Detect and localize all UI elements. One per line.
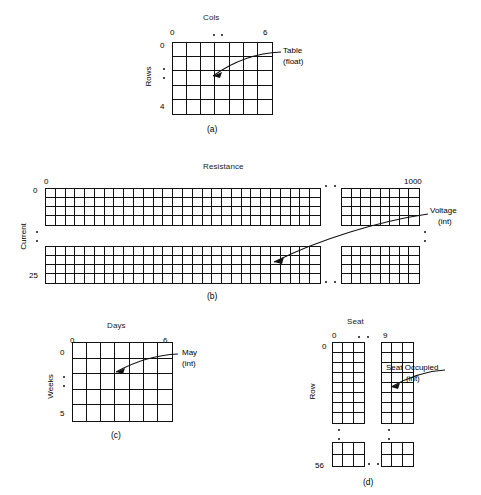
ellipsis-dot: [358, 336, 360, 338]
panel-c-leader-line: [108, 348, 188, 380]
panel-b-y-ellipsis: [36, 231, 38, 242]
ellipsis-dot: [63, 385, 65, 387]
panel-d-annotation-line1: Seat Occupied: [386, 363, 438, 374]
panel-a-y-max-tick: 4: [160, 102, 164, 111]
panel-c-annotation-line1: May: [182, 348, 197, 359]
panel-b-y-max-tick: 25: [29, 271, 38, 280]
panel-c: Days 0 6 Weeks 0 5 May (int) (c): [0, 310, 250, 460]
panel-c-y-ellipsis: [63, 376, 65, 387]
panel-c-y-min-tick: 0: [60, 348, 64, 357]
ellipsis-dot: [36, 231, 38, 233]
ellipsis-dot: [36, 240, 38, 242]
panel-a-x-ellipsis: [213, 34, 223, 36]
panel-a-annotation-line2: (float): [283, 57, 303, 68]
panel-d-x-ellipsis-top: [358, 336, 369, 338]
panel-c-y-axis-title: Weeks: [46, 365, 55, 409]
ellipsis-dot: [63, 376, 65, 378]
panel-c-caption: (c): [111, 430, 121, 440]
panel-c-annotation: May (int): [182, 348, 197, 369]
panel-d-grid-bottom-left[interactable]: [332, 442, 365, 467]
panel-d-x-min-tick: 0: [332, 331, 336, 340]
ellipsis-dot: [377, 463, 379, 465]
ellipsis-dot: [367, 336, 369, 338]
ellipsis-dot: [334, 281, 336, 283]
panel-b-y-axis-title: Current: [19, 214, 28, 260]
panel-a-annotation: Table (float): [283, 46, 303, 67]
panel-a-y-axis-title: Rows: [144, 57, 153, 97]
ellipsis-dot: [368, 463, 370, 465]
panel-c-x-axis-title: Days: [107, 321, 126, 331]
panel-d: Seat 0 9 Row 0 56: [250, 305, 481, 495]
panel-d-y-max-tick: 56: [315, 461, 324, 470]
panel-d-y-ellipsis-right: [388, 429, 390, 440]
panel-b-y-min-tick: 0: [33, 186, 37, 195]
panel-a-y-ellipsis: [163, 68, 165, 79]
panel-a-x-axis-title: Cols: [203, 13, 219, 23]
panel-c-annotation-line2: (int): [182, 359, 197, 370]
panel-d-grid-top-left[interactable]: [332, 342, 365, 424]
ellipsis-dot: [213, 34, 215, 36]
panel-d-y-min-tick: 0: [322, 342, 326, 351]
panel-a-y-min-tick: 0: [160, 41, 164, 50]
ellipsis-dot: [163, 68, 165, 70]
ellipsis-dot: [221, 34, 223, 36]
ellipsis-dot: [388, 429, 390, 431]
panel-a: Cols 0 6 Rows 0 4 Table (float) (a): [0, 0, 481, 142]
panel-b-x-ellipsis-bottom: [325, 281, 336, 283]
ellipsis-dot: [338, 429, 340, 431]
panel-a-annotation-line1: Table: [283, 46, 303, 57]
panel-b: Resistance 0 1000 Current 0 25: [0, 150, 481, 295]
panel-a-x-min-tick: 0: [170, 28, 174, 37]
panel-b-annotation-line1: Voltage: [430, 206, 457, 217]
panel-b-x-max-tick: 1000: [404, 177, 422, 186]
panel-b-x-ellipsis-top: [325, 185, 336, 187]
ellipsis-dot: [338, 438, 340, 440]
panel-a-caption: (a): [207, 124, 217, 134]
panel-b-annotation-line2: (int): [438, 217, 457, 228]
panel-a-x-max-tick: 6: [263, 28, 267, 37]
panel-d-x-axis-title: Seat: [347, 317, 364, 327]
panel-d-annotation: Seat Occupied (int): [386, 363, 438, 384]
ellipsis-dot: [334, 185, 336, 187]
panel-d-y-ellipsis-left: [338, 429, 340, 440]
panel-b-annotation: Voltage (int): [430, 206, 457, 227]
panel-d-y-axis-title: Row: [308, 372, 317, 412]
panel-d-x-ellipsis-bottom: [368, 463, 379, 465]
panel-b-x-min-tick: 0: [44, 177, 48, 186]
panel-c-y-max-tick: 5: [60, 409, 64, 418]
panel-a-leader-line: [205, 45, 295, 85]
panel-d-x-max-tick: 9: [383, 331, 387, 340]
panel-b-x-axis-title: Resistance: [203, 162, 244, 172]
ellipsis-dot: [388, 438, 390, 440]
panel-d-annotation-line2: (int): [406, 374, 438, 385]
panel-d-caption: (d): [363, 477, 373, 487]
panel-d-grid-bottom-right[interactable]: [381, 442, 414, 467]
ellipsis-dot: [163, 77, 165, 79]
panel-b-leader-line: [260, 205, 440, 280]
ellipsis-dot: [325, 185, 327, 187]
panel-b-caption: (b): [207, 291, 217, 301]
ellipsis-dot: [325, 281, 327, 283]
